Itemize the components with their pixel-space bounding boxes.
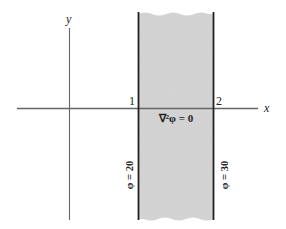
x-axis-label: x (263, 101, 270, 115)
boundary-condition-1: φ = 20 (124, 161, 135, 189)
y-axis-label: y (65, 12, 72, 26)
boundary-label-2: 2 (216, 94, 222, 108)
laplace-strip-diagram: y x 1 2 ∇²φ = 0 φ = 20 φ = 30 (0, 0, 286, 229)
boundary-condition-2: φ = 30 (219, 161, 230, 189)
laplace-equation-label: ∇²φ = 0 (158, 112, 194, 124)
boundary-label-1: 1 (129, 94, 135, 108)
